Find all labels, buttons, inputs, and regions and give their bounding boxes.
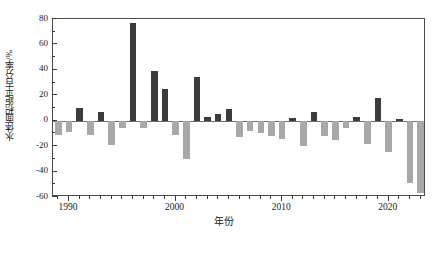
bar-2002 bbox=[194, 77, 201, 120]
bar-2023 bbox=[417, 121, 424, 193]
y-tick-minor bbox=[52, 82, 55, 83]
x-tick-minor bbox=[111, 196, 112, 199]
y-tick-minor bbox=[52, 56, 55, 57]
x-tick-minor bbox=[302, 196, 303, 199]
x-tick-major bbox=[175, 196, 176, 201]
bar-2019 bbox=[375, 98, 382, 121]
bar-2011 bbox=[289, 118, 296, 121]
y-tick-label: -60 bbox=[8, 192, 48, 201]
y-tick-label: 40 bbox=[8, 64, 48, 73]
bar-2017 bbox=[353, 117, 360, 121]
bar-1995 bbox=[119, 121, 126, 129]
bar-2012 bbox=[300, 121, 307, 146]
bar-2016 bbox=[343, 121, 350, 129]
y-tick-minor bbox=[52, 107, 55, 108]
bar-2021 bbox=[396, 119, 403, 120]
x-tick-minor bbox=[313, 196, 314, 199]
x-tick-minor bbox=[185, 196, 186, 199]
x-tick-minor bbox=[334, 196, 335, 199]
x-tick-label: 2010 bbox=[258, 202, 304, 213]
x-tick-minor bbox=[164, 196, 165, 199]
x-tick-major bbox=[68, 196, 69, 201]
x-tick-minor bbox=[409, 196, 410, 199]
bar-2010 bbox=[279, 121, 286, 139]
x-tick-minor bbox=[420, 196, 421, 199]
bar-2018 bbox=[364, 121, 371, 144]
bar-2008 bbox=[258, 121, 265, 134]
bar-2022 bbox=[407, 121, 414, 183]
x-tick-minor bbox=[217, 196, 218, 199]
bar-2009 bbox=[268, 121, 275, 136]
x-tick-minor bbox=[324, 196, 325, 199]
y-tick-major bbox=[52, 145, 57, 146]
bar-series bbox=[53, 19, 424, 195]
y-tick-minor bbox=[52, 31, 55, 32]
bar-1992 bbox=[87, 121, 94, 135]
y-tick-label: 80 bbox=[8, 14, 48, 23]
x-tick-label: 2000 bbox=[152, 202, 198, 213]
y-tick-major bbox=[52, 94, 57, 95]
y-tick-label: -40 bbox=[8, 166, 48, 175]
bar-1990 bbox=[66, 121, 73, 132]
bar-2013 bbox=[311, 112, 318, 121]
bar-2020 bbox=[385, 121, 392, 153]
bar-2003 bbox=[204, 117, 211, 121]
x-tick-minor bbox=[239, 196, 240, 199]
bar-1996 bbox=[130, 23, 137, 121]
y-tick-minor bbox=[52, 158, 55, 159]
x-tick-label: 2020 bbox=[365, 202, 411, 213]
y-tick-label: 60 bbox=[8, 39, 48, 48]
bar-1989 bbox=[55, 121, 62, 135]
y-tick-label: -20 bbox=[8, 141, 48, 150]
x-tick-minor bbox=[345, 196, 346, 199]
y-tick-minor bbox=[52, 132, 55, 133]
x-tick-major bbox=[388, 196, 389, 201]
y-tick-minor bbox=[52, 183, 55, 184]
bar-2004 bbox=[215, 114, 222, 120]
bar-2014 bbox=[321, 121, 328, 136]
bar-1994 bbox=[108, 121, 115, 145]
x-tick-label: 1990 bbox=[45, 202, 91, 213]
y-tick-major bbox=[52, 43, 57, 44]
x-tick-minor bbox=[249, 196, 250, 199]
figure-container: 水体面积距平百分率/% 806040200-20-40-601990200020… bbox=[0, 0, 448, 260]
bar-2006 bbox=[236, 121, 243, 138]
x-axis-title: 年份 bbox=[0, 216, 448, 228]
x-tick-major bbox=[281, 196, 282, 201]
y-tick-major bbox=[52, 18, 57, 19]
x-tick-minor bbox=[57, 196, 58, 199]
bar-2007 bbox=[247, 121, 254, 131]
x-tick-minor bbox=[270, 196, 271, 199]
x-tick-minor bbox=[121, 196, 122, 199]
plot-area bbox=[52, 18, 425, 196]
y-tick-label: 20 bbox=[8, 90, 48, 99]
x-tick-minor bbox=[228, 196, 229, 199]
x-tick-minor bbox=[100, 196, 101, 199]
bar-2000 bbox=[172, 121, 179, 135]
x-tick-minor bbox=[89, 196, 90, 199]
x-tick-minor bbox=[196, 196, 197, 199]
bar-1999 bbox=[162, 89, 169, 121]
bar-1993 bbox=[98, 112, 105, 121]
bar-1998 bbox=[151, 71, 158, 121]
y-tick-major bbox=[52, 171, 57, 172]
y-tick-major bbox=[52, 69, 57, 70]
x-tick-minor bbox=[292, 196, 293, 199]
bar-2005 bbox=[226, 109, 233, 120]
x-tick-minor bbox=[356, 196, 357, 199]
x-tick-minor bbox=[132, 196, 133, 199]
x-tick-minor bbox=[153, 196, 154, 199]
x-tick-minor bbox=[207, 196, 208, 199]
bar-1997 bbox=[140, 121, 147, 129]
x-tick-minor bbox=[398, 196, 399, 199]
x-tick-minor bbox=[143, 196, 144, 199]
y-tick-major bbox=[52, 196, 57, 197]
y-tick-label: 0 bbox=[8, 115, 48, 124]
x-tick-minor bbox=[260, 196, 261, 199]
x-tick-minor bbox=[366, 196, 367, 199]
bar-1991 bbox=[76, 108, 83, 121]
x-tick-minor bbox=[377, 196, 378, 199]
y-tick-major bbox=[52, 120, 57, 121]
x-tick-minor bbox=[79, 196, 80, 199]
bar-2001 bbox=[183, 121, 190, 159]
